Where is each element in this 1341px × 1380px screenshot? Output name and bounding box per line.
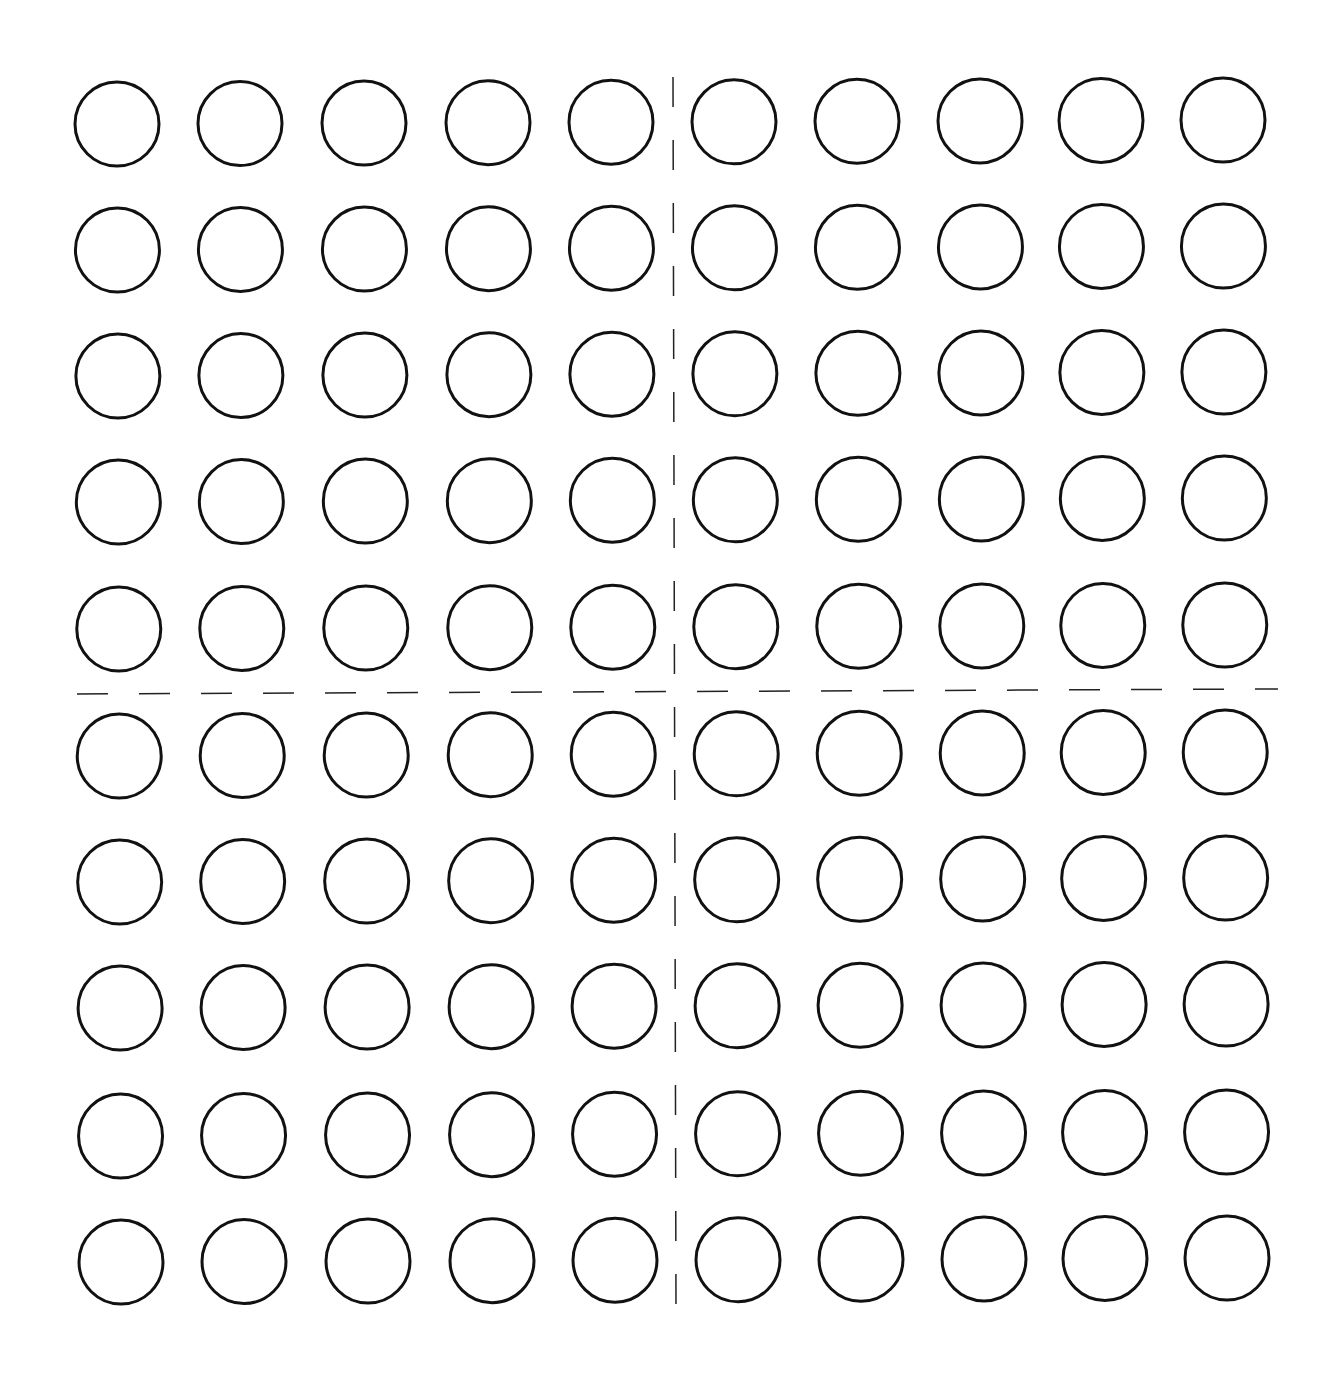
circle-bottom-left-r10-c1 (79, 1220, 163, 1304)
circle-top-left-r1-c1 (75, 82, 159, 166)
circle-bottom-left-r10-c3 (326, 1219, 410, 1303)
circle-top-left-r4-c4 (447, 459, 531, 543)
circle-top-left-r2-c5 (569, 206, 653, 290)
circle-bottom-right-r7-c6 (695, 838, 779, 922)
circle-bottom-left-r10-c2 (202, 1220, 286, 1304)
circle-bottom-left-r8-c5 (572, 964, 656, 1048)
circle-top-left-r3-c1 (76, 334, 160, 418)
circle-bottom-left-r9-c1 (79, 1094, 163, 1178)
circle-top-right-r4-c7 (816, 457, 900, 541)
circle-top-left-r4-c5 (570, 458, 654, 542)
circle-top-right-r4-c10 (1182, 456, 1266, 540)
circle-top-left-r5-c4 (448, 586, 532, 670)
circle-bottom-left-r8-c4 (449, 965, 533, 1049)
circle-bottom-right-r6-c6 (694, 712, 778, 796)
circle-bottom-right-r10-c7 (819, 1217, 903, 1301)
circle-top-right-r2-c8 (938, 205, 1022, 289)
circle-bottom-right-r9-c6 (696, 1092, 780, 1176)
circle-bottom-left-r6-c3 (324, 713, 408, 797)
circle-top-left-r5-c1 (77, 587, 161, 671)
circle-bottom-left-r9-c4 (450, 1093, 534, 1177)
circle-bottom-left-r6-c1 (77, 714, 161, 798)
horizontal-dashed-divider (77, 689, 1278, 694)
circle-top-left-r4-c2 (199, 460, 283, 544)
circle-top-left-r5-c5 (571, 585, 655, 669)
circle-top-left-r2-c1 (75, 208, 159, 292)
circle-top-left-r2-c4 (446, 207, 530, 291)
circle-top-right-r3-c8 (939, 331, 1023, 415)
circle-bottom-right-r6-c8 (940, 711, 1024, 795)
circle-top-left-r3-c2 (199, 334, 283, 418)
circle-top-right-r4-c8 (939, 457, 1023, 541)
circle-bottom-left-r7-c1 (78, 840, 162, 924)
circle-bottom-left-r6-c5 (571, 712, 655, 796)
circle-bottom-right-r10-c8 (942, 1217, 1026, 1301)
circle-top-right-r1-c8 (938, 79, 1022, 163)
circle-bottom-right-r7-c10 (1184, 836, 1268, 920)
circle-bottom-left-r7-c2 (201, 840, 285, 924)
circle-bottom-left-r10-c4 (450, 1219, 534, 1303)
circle-bottom-right-r9-c8 (942, 1091, 1026, 1175)
circle-top-right-r5-c7 (817, 584, 901, 668)
circle-bottom-right-r10-c6 (696, 1218, 780, 1302)
circle-bottom-right-r10-c10 (1185, 1216, 1269, 1300)
circle-top-right-r2-c9 (1059, 204, 1143, 288)
circle-top-right-r3-c6 (693, 332, 777, 416)
circle-top-left-r1-c4 (446, 81, 530, 165)
circle-top-left-r2-c3 (322, 207, 406, 291)
circle-bottom-right-r9-c9 (1063, 1090, 1147, 1174)
circle-top-right-r4-c6 (693, 458, 777, 542)
circle-top-right-r1-c9 (1059, 78, 1143, 162)
circle-bottom-left-r9-c5 (573, 1092, 657, 1176)
circle-bottom-right-r8-c8 (941, 963, 1025, 1047)
circle-top-right-r2-c7 (815, 205, 899, 289)
circle-top-right-r5-c9 (1061, 583, 1145, 667)
circle-top-right-r2-c10 (1181, 204, 1265, 288)
circle-bottom-left-r10-c5 (573, 1218, 657, 1302)
circle-top-right-r5-c10 (1183, 583, 1267, 667)
circle-bottom-right-r9-c10 (1185, 1090, 1269, 1174)
circle-top-right-r5-c8 (940, 584, 1024, 668)
circle-bottom-left-r8-c2 (201, 966, 285, 1050)
circle-top-left-r1-c2 (198, 82, 282, 166)
circle-bottom-right-r8-c7 (818, 963, 902, 1047)
circle-bottom-left-r8-c3 (325, 965, 409, 1049)
circle-bottom-left-r6-c2 (200, 714, 284, 798)
circle-top-right-r5-c6 (694, 585, 778, 669)
circle-bottom-right-r7-c8 (941, 837, 1025, 921)
circle-top-left-r4-c1 (76, 460, 160, 544)
circle-top-left-r5-c2 (200, 587, 284, 671)
circle-top-left-r1-c3 (322, 81, 406, 165)
circle-bottom-right-r8-c10 (1184, 962, 1268, 1046)
circle-top-left-r3-c5 (570, 332, 654, 416)
circle-top-right-r3-c10 (1182, 330, 1266, 414)
circle-top-left-r4-c3 (323, 459, 407, 543)
hundred-frame-diagram (0, 0, 1341, 1380)
circle-bottom-left-r6-c4 (448, 713, 532, 797)
circle-bottom-right-r6-c10 (1183, 710, 1267, 794)
circle-top-right-r2-c6 (692, 206, 776, 290)
circle-bottom-left-r7-c3 (325, 839, 409, 923)
circle-bottom-left-r7-c5 (572, 838, 656, 922)
vertical-dashed-divider (673, 77, 676, 1307)
circle-bottom-right-r8-c9 (1062, 962, 1146, 1046)
circle-top-left-r2-c2 (198, 208, 282, 292)
circle-bottom-left-r8-c1 (78, 966, 162, 1050)
circle-bottom-right-r7-c9 (1062, 836, 1146, 920)
circle-bottom-right-r8-c6 (695, 964, 779, 1048)
circle-bottom-left-r9-c2 (202, 1094, 286, 1178)
circle-top-left-r3-c4 (447, 333, 531, 417)
circle-top-right-r3-c9 (1060, 330, 1144, 414)
circle-top-right-r3-c7 (816, 331, 900, 415)
circle-top-left-r5-c3 (324, 586, 408, 670)
circle-bottom-left-r9-c3 (326, 1093, 410, 1177)
circle-grid (75, 78, 1269, 1304)
circle-bottom-left-r7-c4 (449, 839, 533, 923)
circle-top-right-r1-c10 (1181, 78, 1265, 162)
circle-top-right-r4-c9 (1060, 456, 1144, 540)
circle-bottom-right-r6-c9 (1061, 710, 1145, 794)
circle-top-left-r1-c5 (569, 80, 653, 164)
circle-top-left-r3-c3 (323, 333, 407, 417)
circle-top-right-r1-c7 (815, 79, 899, 163)
circle-bottom-right-r10-c9 (1063, 1216, 1147, 1300)
